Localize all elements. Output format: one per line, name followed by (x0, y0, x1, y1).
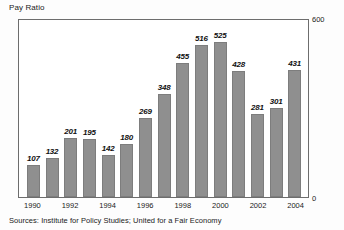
x-axis-tick-1996: 1996 (137, 201, 154, 210)
bar-slot: 281 (248, 20, 267, 197)
x-axis-tick-1994: 1994 (99, 201, 116, 210)
bar[interactable]: 431 (288, 70, 301, 197)
bar-value-label: 348 (158, 83, 171, 92)
bar-value-label: 516 (195, 34, 208, 43)
bar-value-label: 142 (102, 144, 115, 153)
bar-value-label: 428 (232, 60, 245, 69)
bar[interactable]: 107 (27, 165, 40, 197)
bar-value-label: 525 (214, 31, 227, 40)
x-axis-tick-2000: 2000 (212, 201, 229, 210)
x-axis: 19901992199419961998200020022004 (18, 201, 309, 213)
sources-note: Sources: Institute for Policy Studies; U… (9, 216, 221, 225)
bar[interactable]: 428 (232, 71, 245, 197)
bar[interactable]: 281 (251, 114, 264, 197)
bar[interactable]: 525 (214, 42, 227, 197)
bar-slot: 516 (192, 20, 211, 197)
bar[interactable]: 195 (83, 139, 96, 197)
bar-value-label: 281 (251, 103, 264, 112)
bar-slot: 269 (136, 20, 155, 197)
bar-slot: 107 (24, 20, 43, 197)
bar[interactable]: 180 (120, 144, 133, 197)
bar-value-label: 132 (46, 147, 59, 156)
bar[interactable]: 132 (46, 158, 59, 197)
bar[interactable]: 301 (270, 108, 283, 197)
bar-value-label: 269 (139, 107, 152, 116)
x-axis-tick-1992: 1992 (62, 201, 79, 210)
x-axis-tick-2004: 2004 (287, 201, 304, 210)
bar[interactable]: 142 (102, 155, 115, 197)
bar-slot: 455 (173, 20, 192, 197)
y-axis-tick-min: 0 (312, 194, 316, 203)
bar[interactable]: 201 (64, 138, 77, 197)
x-axis-tick-1998: 1998 (174, 201, 191, 210)
bar-slot: 428 (229, 20, 248, 197)
chart-figure: Pay Ratio 107132201195142180269348455516… (0, 0, 344, 230)
bar-slot: 195 (80, 20, 99, 197)
bar-value-label: 301 (270, 97, 283, 106)
bar-slot: 201 (61, 20, 80, 197)
bar-slot: 180 (117, 20, 136, 197)
bar-slot: 525 (211, 20, 230, 197)
x-axis-tick-1990: 1990 (24, 201, 41, 210)
bar-value-label: 107 (27, 154, 40, 163)
bar-slot: 301 (267, 20, 286, 197)
x-axis-tick-2002: 2002 (250, 201, 267, 210)
bar[interactable]: 516 (195, 45, 208, 197)
y-axis-tick-max: 600 (312, 15, 325, 24)
bar-slot: 431 (285, 20, 304, 197)
bar-value-label: 195 (83, 128, 96, 137)
bar[interactable]: 269 (139, 118, 152, 197)
chart-title: Pay Ratio (9, 3, 45, 12)
bar-slot: 132 (43, 20, 62, 197)
bar-series: 1071322011951421802693484555165254282813… (19, 20, 308, 197)
bar-value-label: 455 (176, 52, 189, 61)
plot-area: 1071322011951421802693484555165254282813… (18, 19, 309, 198)
bar-value-label: 180 (120, 133, 133, 142)
bar[interactable]: 348 (158, 94, 171, 197)
bar-slot: 142 (99, 20, 118, 197)
bar-value-label: 431 (288, 59, 301, 68)
y-axis: 600 0 (312, 19, 342, 198)
bar-value-label: 201 (64, 127, 77, 136)
bar[interactable]: 455 (176, 63, 189, 197)
bar-slot: 348 (155, 20, 174, 197)
